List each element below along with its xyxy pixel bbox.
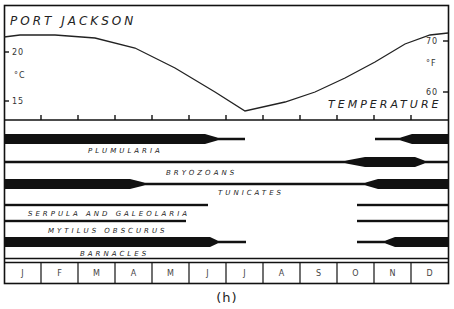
month-mar: M bbox=[93, 269, 100, 278]
figure-caption: (h) bbox=[0, 290, 454, 305]
tick-right-60: 60 bbox=[426, 88, 438, 97]
bar-barnacles bbox=[4, 237, 246, 247]
unit-celsius: °C bbox=[14, 71, 26, 80]
month-jan: J bbox=[20, 269, 23, 278]
label-bryozoans: BRYOZOANS bbox=[166, 169, 237, 177]
bar-plumularia bbox=[4, 134, 245, 144]
month-aug: A bbox=[279, 269, 285, 278]
month-dec: D bbox=[426, 269, 432, 278]
temperature-label: TEMPERATURE bbox=[328, 98, 441, 111]
bar-bryozoans bbox=[4, 157, 448, 167]
label-mytilus: MYTILUS OBSCURUS bbox=[48, 227, 168, 235]
month-feb: F bbox=[57, 269, 62, 278]
month-oct: O bbox=[352, 269, 358, 278]
y-axis-ticks bbox=[4, 41, 448, 101]
label-serpula: SERPULA AND GALEOLARIA bbox=[28, 210, 190, 218]
bar-serpula bbox=[4, 204, 208, 206]
settlement-chart: 20 15 °C 70 60 °F PORT JACKSON TEMPERATU… bbox=[0, 0, 454, 309]
bar-tunicates bbox=[4, 179, 448, 189]
label-tunicates: TUNICATES bbox=[218, 189, 284, 197]
label-barnacles: BARNACLES bbox=[80, 250, 149, 258]
month-may: M bbox=[167, 269, 174, 278]
month-apr: A bbox=[131, 269, 137, 278]
unit-fahrenheit: °F bbox=[426, 59, 437, 68]
chart-title: PORT JACKSON bbox=[10, 14, 136, 28]
month-jul: J bbox=[242, 269, 245, 278]
month-jun: J bbox=[205, 269, 208, 278]
tick-left-20: 20 bbox=[12, 48, 24, 57]
bar-mytilus bbox=[4, 220, 186, 222]
month-nov: N bbox=[390, 269, 396, 278]
tick-left-15: 15 bbox=[12, 97, 24, 106]
month-sep: S bbox=[316, 269, 321, 278]
label-plumularia: PLUMULARIA bbox=[88, 147, 163, 155]
tick-right-70: 70 bbox=[426, 37, 438, 46]
